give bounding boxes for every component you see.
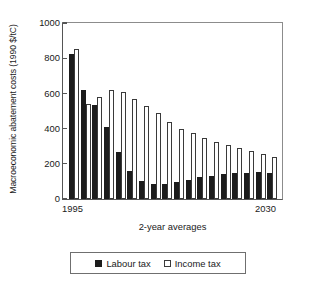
chart-legend: Labour tax Income tax — [70, 252, 246, 274]
bar-group — [220, 23, 232, 199]
y-tick-800-label: 800 — [44, 53, 63, 62]
bar-group — [185, 23, 197, 199]
bar-income-tax-1997 — [86, 104, 91, 199]
bar-group — [138, 23, 150, 199]
bar-group — [150, 23, 162, 199]
bar-income-tax-2027 — [261, 154, 266, 199]
bar-group — [91, 23, 103, 199]
bar-income-tax-2011 — [167, 122, 172, 199]
bar-income-tax-2023 — [237, 148, 242, 199]
legend-swatch-income-icon — [164, 260, 171, 267]
legend-swatch-labour-icon — [95, 260, 102, 267]
bar-group — [115, 23, 127, 199]
y-tick-1000-label: 1000 — [39, 18, 63, 27]
bar-income-tax-2025 — [249, 151, 254, 199]
bar-group — [103, 23, 115, 199]
bar-group — [173, 23, 185, 199]
y-tick-400-label: 400 — [44, 124, 63, 133]
bar-income-tax-2019 — [214, 142, 219, 199]
bar-group — [80, 23, 92, 199]
bar-group — [208, 23, 220, 199]
bar-group — [68, 23, 80, 199]
y-tick-600-label: 600 — [44, 89, 63, 98]
bar-income-tax-2001 — [109, 90, 114, 199]
y-tick-200-label: 200 — [44, 159, 63, 168]
legend-item-income-tax: Income tax — [164, 258, 221, 269]
bar-group — [161, 23, 173, 199]
bar-income-tax-2021 — [226, 145, 231, 199]
bar-group — [231, 23, 243, 199]
bar-income-tax-2017 — [202, 138, 207, 199]
x-axis-title: 2-year averages — [62, 221, 283, 232]
bar-income-tax-2029 — [272, 157, 277, 199]
bar-group — [126, 23, 138, 199]
bar-income-tax-1999 — [97, 97, 102, 199]
legend-item-labour-tax: Labour tax — [95, 258, 150, 269]
bar-groups — [63, 23, 282, 199]
bar-income-tax-2007 — [144, 106, 149, 199]
legend-label-labour: Labour tax — [106, 258, 150, 269]
x-tick-end-label: 2030 — [255, 203, 276, 214]
bar-income-tax-2005 — [132, 99, 137, 199]
bar-income-tax-2009 — [156, 113, 161, 199]
bar-chart-figure: Macroeconomic abatement costs (1990 $/tC… — [0, 0, 316, 291]
bar-group — [196, 23, 208, 199]
plot-area: 1000 800 600 400 200 0 — [62, 22, 283, 200]
bar-group — [243, 23, 255, 199]
bar-income-tax-1995 — [74, 49, 79, 199]
bar-income-tax-2013 — [179, 129, 184, 199]
bar-income-tax-2015 — [191, 133, 196, 199]
bar-group — [255, 23, 267, 199]
y-axis-title: Macroeconomic abatement costs (1990 $/tC… — [0, 0, 26, 218]
bar-income-tax-2003 — [121, 92, 126, 199]
x-tick-start-label: 1995 — [62, 203, 83, 214]
y-axis-title-text: Macroeconomic abatement costs (1990 $/tC… — [8, 24, 18, 193]
bar-group — [266, 23, 278, 199]
legend-label-income: Income tax — [175, 258, 221, 269]
